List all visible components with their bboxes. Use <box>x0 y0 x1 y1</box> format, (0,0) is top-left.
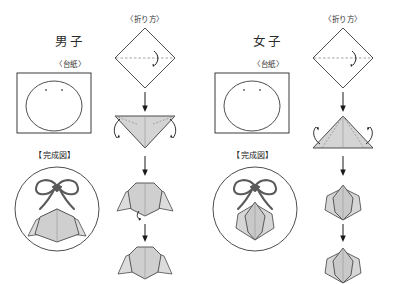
step1-diamond-male <box>113 26 177 90</box>
step-arrow-male-2 <box>141 156 149 176</box>
column-male: 男子 〈台紙〉 【完成図】 <box>0 0 198 284</box>
step3-tulip-female <box>308 178 378 222</box>
step-arrow-female-3 <box>339 224 347 242</box>
step-arrow-male-3 <box>141 224 149 242</box>
step-arrow-female-2 <box>339 156 347 176</box>
step1-diamond-female <box>311 26 375 90</box>
step3-collar-male <box>110 178 180 222</box>
finished-figure-male <box>12 164 102 254</box>
step4-tulip-final-female <box>308 243 378 283</box>
finished-label-female: 【完成図】 <box>198 152 308 160</box>
step4-collar-final-male <box>110 243 180 283</box>
method-label-male: 〈折り方〉 <box>105 16 185 24</box>
finished-label-male: 【完成図】 <box>0 152 110 160</box>
step-arrow-female-1 <box>339 92 347 112</box>
step-arrow-male-1 <box>141 92 149 112</box>
base-card-male <box>16 72 92 134</box>
column-female: 女子 〈台紙〉 【完成図】 <box>198 0 396 284</box>
step2-triangle-down-male <box>110 113 180 151</box>
instruction-sheet: 男子 〈台紙〉 【完成図】 <box>0 0 396 284</box>
finished-figure-female <box>210 164 300 254</box>
step2-triangle-up-female <box>308 113 378 151</box>
method-label-female: 〈折り方〉 <box>303 16 383 24</box>
base-card-female <box>214 72 290 134</box>
